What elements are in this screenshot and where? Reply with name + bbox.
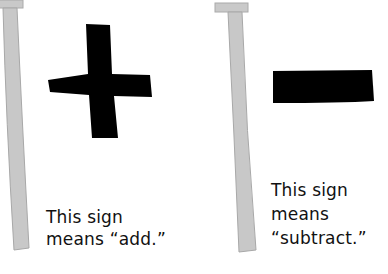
- right-pole-icon: [215, 3, 256, 252]
- caption-line: This sign: [271, 178, 367, 202]
- caption-line: means: [271, 202, 367, 226]
- minus-icon: [273, 70, 374, 103]
- add-caption: This sign means “add.”: [46, 206, 166, 250]
- caption-line: This sign: [46, 206, 166, 228]
- left-pole-icon: [0, 0, 29, 250]
- caption-line: means “add.”: [46, 228, 166, 250]
- caption-line: “subtract.”: [271, 226, 367, 250]
- subtract-caption: This sign means “subtract.”: [271, 178, 367, 250]
- plus-icon: [48, 24, 152, 138]
